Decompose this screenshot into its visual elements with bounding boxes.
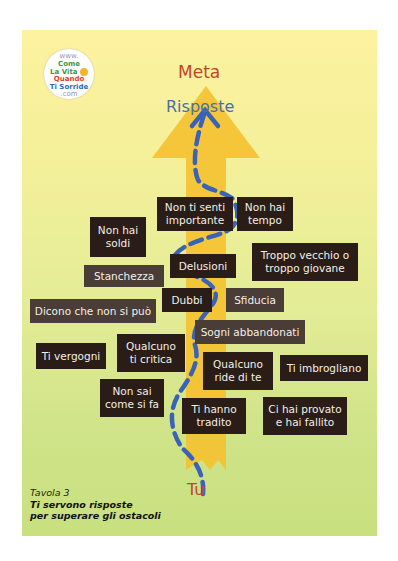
obstacle-box: Non hai tempo — [237, 197, 293, 231]
obstacle-box: Sfiducia — [226, 288, 284, 312]
obstacle-box: Dicono che non si può — [30, 299, 156, 323]
obstacle-box: Qualcuno ti critica — [117, 334, 185, 372]
obstacle-box: Sogni abbandonati — [195, 320, 305, 344]
obstacle-box: Ti hanno tradito — [182, 398, 246, 434]
answers-label: Risposte — [166, 97, 234, 116]
logo-text-com: .com — [44, 91, 94, 99]
site-logo: www. Come La Vita Quando Ti Sorride .com — [44, 49, 94, 99]
obstacle-box: Non ti senti importante — [157, 197, 233, 231]
you-label: Tu — [187, 480, 204, 499]
caption-title-line1: Ti servono risposte — [30, 499, 161, 511]
obstacle-box: Non hai soldi — [90, 217, 146, 257]
obstacle-box: Non sai come si fa — [100, 379, 164, 417]
caption: Tavola 3 Ti servono risposte per superar… — [30, 487, 161, 522]
obstacle-box: Ti imbrogliano — [280, 355, 368, 381]
obstacle-box: Ci hai provato e hai fallito — [263, 397, 347, 435]
caption-title-line2: per superare gli ostacoli — [30, 510, 161, 522]
obstacle-box: Delusioni — [170, 254, 236, 278]
obstacle-box: Troppo vecchio o troppo giovane — [252, 243, 358, 281]
obstacle-box: Qualcuno ride di te — [203, 352, 273, 390]
logo-text-come: Come — [44, 61, 94, 69]
goal-label: Meta — [178, 62, 220, 82]
obstacle-box: Dubbi — [162, 288, 212, 312]
obstacle-box: Stanchezza — [84, 265, 164, 287]
obstacle-box: Ti vergogni — [36, 343, 106, 369]
caption-label: Tavola 3 — [30, 487, 70, 498]
